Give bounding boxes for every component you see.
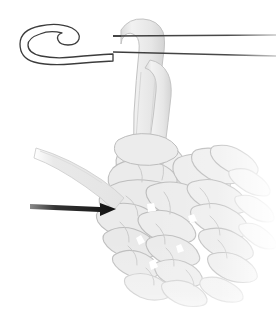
illustration-canvas: [0, 0, 276, 330]
crochet-illustration: Crochet stitch instruction diagram Line …: [0, 0, 276, 330]
fabric-bottom-fade: [80, 240, 276, 330]
